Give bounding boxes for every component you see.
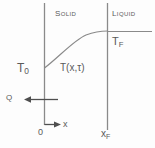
fusion-temperature-subscript: F — [119, 40, 124, 49]
front-position-label: xF — [101, 129, 110, 140]
fusion-temperature-label: TF — [112, 36, 123, 49]
temperature-function-label: T(x,τ) — [60, 63, 85, 73]
wall-temperature-subscript: 0 — [24, 66, 29, 76]
region-label-liquid: Liquid — [112, 7, 136, 18]
origin-label: 0 — [38, 128, 43, 137]
heat-flux-label: Q — [6, 94, 12, 102]
fusion-temperature-symbol: T — [112, 35, 119, 47]
x-axis-arrow-head — [54, 122, 61, 128]
x-axis-label: x — [63, 120, 68, 129]
front-position-subscript: F — [106, 133, 110, 140]
region-label-solid: Solid — [55, 7, 76, 18]
heat-flux-arrow-head — [24, 96, 31, 102]
wall-temperature-label: T0 — [17, 62, 29, 76]
stefan-problem-diagram: Solid Liquid TF T0 T(x,τ) Q 0 x xF — [0, 0, 155, 148]
